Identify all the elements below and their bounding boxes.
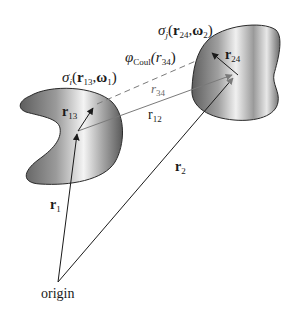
label-sigma-i: σi(r13,ω1) <box>62 70 117 87</box>
label-r1: r1 <box>50 198 61 214</box>
label-r24: r24 <box>225 48 240 64</box>
label-sigma-j: σj(r24,ω2) <box>158 23 213 40</box>
label-r2: r2 <box>175 160 186 176</box>
diagram-canvas <box>0 0 287 317</box>
label-origin: origin <box>41 287 74 301</box>
label-r13: r13 <box>62 105 77 121</box>
label-r12: r12 <box>148 108 162 124</box>
molecule-i-blob <box>20 88 122 184</box>
label-phi-coul: φCoul(r34) <box>125 50 176 67</box>
label-r34: r34 <box>151 82 165 98</box>
